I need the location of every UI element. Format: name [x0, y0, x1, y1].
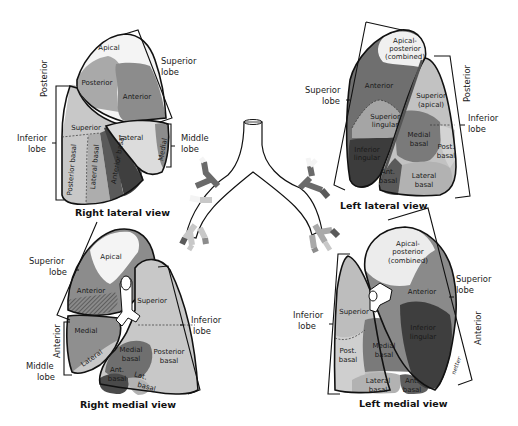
label-middle-lobe-2: lobe — [181, 144, 199, 154]
segment-medial-basal-2: basal — [410, 140, 429, 148]
segment-medial-basal-2: basal — [375, 351, 394, 359]
segment-ant-basal-1: Ant. — [405, 377, 419, 385]
segment-inferior-lingular-1: Inferior — [354, 146, 379, 154]
title-right-lateral-view: Right lateral view — [75, 207, 170, 218]
label-inferior-lobe-2: lobe — [28, 144, 46, 154]
label-superior-lobe: Superior — [29, 256, 65, 266]
label-inferior-lobe-2: lobe — [298, 321, 316, 331]
segment-ant-basal-2: basal — [108, 375, 127, 383]
segment-medial-basal-2: basal — [122, 355, 141, 363]
segment-post-basal-2: basal — [339, 356, 358, 364]
label-superior-lobe-2: lobe — [456, 285, 474, 295]
title-left-lateral-view: Left lateral view — [340, 200, 428, 211]
segment-superior-lingular-2: lingular — [372, 121, 398, 129]
segment-lateral-basal-2: basal — [415, 181, 434, 189]
segment-anterior: Anterior — [408, 288, 436, 296]
label-middle-lobe: Middle — [181, 133, 209, 143]
segment-lateral-basal-1: Lateral — [366, 377, 390, 385]
segment-superior: Superior — [339, 308, 369, 316]
segment-superior-apical-1: Superior — [416, 92, 446, 100]
segment-superior: Superior — [137, 297, 167, 305]
label-anterior: Anterior — [473, 311, 483, 345]
segment-apical-posterior-1: Apical- — [396, 240, 420, 248]
label-superior-lobe-2: lobe — [49, 267, 67, 277]
segment-post-basal-1: Post. — [340, 347, 357, 355]
segment-apical-posterior-3: (combined) — [385, 53, 425, 61]
segment-lateral-basal-1: Lateral — [412, 172, 436, 180]
segment-superior-lingular-1: Superior — [370, 113, 400, 121]
segment-superior-apical-2: (apical) — [418, 101, 444, 109]
segment-apical-posterior-3: (combined) — [388, 257, 428, 265]
artist-signature: netter — [449, 354, 462, 375]
right-lateral-view: Apical Posterior Anterior Superior Later… — [17, 30, 209, 218]
label-inferior-lobe-2: lobe — [193, 326, 211, 336]
label-anterior: Anterior — [52, 324, 62, 358]
segment-anterior: Anterior — [77, 287, 105, 295]
segment-inferior-lingular-2: lingular — [410, 333, 436, 341]
segment-superior: Superior — [71, 124, 101, 132]
label-inferior-lobe-2: lobe — [468, 124, 486, 134]
label-superior-lobe-2: lobe — [161, 67, 179, 77]
title-left-medial-view: Left medial view — [359, 398, 448, 409]
segment-inferior-lingular-1: Inferior — [410, 324, 435, 332]
label-superior-lobe: Superior — [305, 85, 341, 95]
segment-ant-basal-1: Ant. — [110, 366, 124, 374]
segment-apical-posterior-2: posterior — [392, 248, 424, 256]
title-right-medial-view: Right medial view — [80, 399, 176, 410]
segment-lateral-basal-2: basal — [369, 386, 388, 394]
segment-post-basal-2: basal — [437, 152, 456, 160]
label-inferior-lobe: Inferior — [293, 310, 324, 320]
segment-anterior: Anterior — [123, 93, 151, 101]
label-inferior-lobe: Inferior — [17, 133, 48, 143]
label-superior-lobe: Superior — [456, 274, 492, 284]
segment-apical-posterior-2: posterior — [389, 45, 421, 53]
segment-ant-basal-1: Ant. — [381, 168, 395, 176]
label-posterior: Posterior — [462, 64, 472, 102]
right-medial-view: Apical Anterior Superior Medial Lateral … — [26, 222, 222, 410]
segment-posterior-basal-1: Posterior — [154, 348, 185, 356]
segment-posterior: Posterior — [82, 79, 113, 87]
label-superior-lobe: Superior — [161, 56, 197, 66]
left-lateral-view: Apical- posterior (combined) Anterior Su… — [305, 22, 499, 211]
segment-ant-basal-2: basal — [403, 386, 422, 394]
label-posterior: Posterior — [39, 59, 49, 97]
label-inferior-lobe: Inferior — [468, 113, 499, 123]
label-middle-lobe-2: lobe — [37, 372, 55, 382]
segment-anterior: Anterior — [365, 82, 393, 90]
segment-apical: Apical — [98, 44, 119, 52]
segment-posterior-basal-2: basal — [160, 357, 179, 365]
segment-medial: Medial — [75, 327, 98, 335]
bronchopulmonary-segments-diagram: Apical Posterior Anterior Superior Later… — [0, 0, 518, 426]
label-inferior-lobe: Inferior — [191, 315, 222, 325]
label-superior-lobe-2: lobe — [322, 96, 340, 106]
segment-inferior-lingular-2: lingular — [354, 154, 380, 162]
label-middle-lobe: Middle — [26, 361, 54, 371]
segment-apical: Apical — [100, 253, 121, 261]
segment-apical-posterior-1: Apical- — [393, 37, 417, 45]
segment-post-basal-1: Post. — [438, 143, 455, 151]
segment-ant-basal-2: basal — [379, 177, 398, 185]
segment-medial-basal-1: Medial — [373, 342, 396, 350]
segment-medial-basal-1: Medial — [408, 131, 431, 139]
segment-medial-basal-1: Medial — [120, 346, 143, 354]
